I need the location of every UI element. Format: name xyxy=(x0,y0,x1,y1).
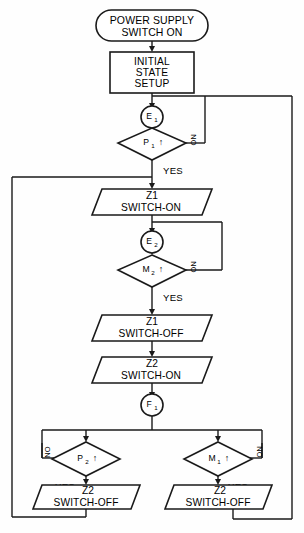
decision-m2-label: M xyxy=(142,264,149,274)
io-z2-off-right-line1: Z2 xyxy=(214,485,226,496)
terminal-start-line2: SWITCH ON xyxy=(122,26,183,38)
decision-p2-no-label: NO xyxy=(43,446,52,458)
io-z2-on-line2: SWITCH-ON xyxy=(121,370,181,381)
io-z1-off-line2: SWITCH-OFF xyxy=(119,328,184,339)
io-z1-off-line1: Z1 xyxy=(146,316,158,327)
io-z2-off-left-line2: SWITCH-OFF xyxy=(54,497,119,508)
process-init-line1: INITIAL xyxy=(134,56,170,67)
state-f1-label: F xyxy=(146,399,151,409)
decision-m1-subscript: 1 xyxy=(217,458,221,465)
decision-p1-subscript: 1 xyxy=(151,142,155,149)
decision-p2-subscript: 2 xyxy=(85,458,89,465)
decision-m2-yes-label: YES xyxy=(163,292,183,303)
io-z2-off-right-line2: SWITCH-OFF xyxy=(186,497,251,508)
decision-m2-no-label: NO xyxy=(189,261,198,273)
io-z2-on-line1: Z2 xyxy=(146,358,158,369)
decision-p1-label: P xyxy=(143,137,149,147)
decision-p2-glyph: ↑ xyxy=(93,453,98,463)
arrowhead-init xyxy=(149,46,155,52)
decision-p2-label: P xyxy=(77,453,83,463)
arrowhead-z2-on xyxy=(149,351,155,357)
node-state-f1 xyxy=(141,394,163,416)
decision-m1-label: M xyxy=(208,453,215,463)
decision-p1-no-label: NO xyxy=(189,134,198,146)
flowchart-diagram: POWER SUPPLY SWITCH ON INITIAL STATE SET… xyxy=(0,0,304,533)
io-z2-off-left-line1: Z2 xyxy=(82,485,94,496)
decision-m2-glyph: ↑ xyxy=(159,264,164,274)
state-f1-subscript: 1 xyxy=(154,404,158,411)
state-e1-subscript: 1 xyxy=(154,116,158,123)
node-state-e2 xyxy=(141,231,163,253)
arrowhead-z1-on xyxy=(149,183,155,189)
process-init-line3: SETUP xyxy=(135,78,170,89)
process-init-line2: STATE xyxy=(136,67,168,78)
node-state-e1 xyxy=(141,106,163,128)
terminal-start-line1: POWER SUPPLY xyxy=(110,14,194,26)
flowchart-canvas: POWER SUPPLY SWITCH ON INITIAL STATE SET… xyxy=(0,0,304,533)
io-z1-on-line1: Z1 xyxy=(146,190,158,201)
io-z1-on-line2: SWITCH-ON xyxy=(121,202,181,213)
decision-p1-yes-label: YES xyxy=(163,165,183,176)
state-e1-label: E xyxy=(146,111,152,121)
arrowhead-z1-off xyxy=(149,309,155,315)
decision-m2-subscript: 2 xyxy=(151,269,155,276)
decision-m1-no-label: NO xyxy=(255,446,264,458)
state-e2-label: E xyxy=(146,236,152,246)
decision-m1-glyph: ↑ xyxy=(225,453,230,463)
arrowhead-m1 xyxy=(215,436,221,442)
decision-p1-glyph: ↑ xyxy=(159,137,164,147)
arrowhead-p2 xyxy=(83,436,89,442)
state-e2-subscript: 2 xyxy=(154,241,158,248)
